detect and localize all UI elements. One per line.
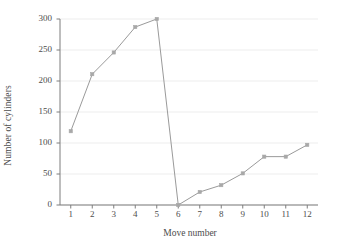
data-point-marker (263, 155, 266, 158)
x-tick-label: 4 (125, 210, 145, 219)
y-tick-label: 50 (43, 169, 52, 178)
y-tick-label: 200 (39, 76, 53, 85)
x-tick-label: 1 (61, 210, 81, 219)
y-tick-label: 300 (39, 14, 53, 23)
y-axis-ticks (57, 19, 61, 205)
y-tick-label: 250 (39, 45, 53, 54)
data-point-marker (69, 130, 72, 133)
line-chart-svg (60, 19, 318, 205)
x-tick-label: 5 (147, 210, 167, 219)
y-tick-label: 100 (39, 138, 53, 147)
y-tick-label: 0 (48, 200, 53, 209)
x-axis-title: Move number (60, 228, 320, 238)
x-axis-tick-labels: 123456789101112 (0, 210, 340, 226)
data-point-marker (177, 203, 180, 206)
x-tick-label: 7 (190, 210, 210, 219)
x-tick-label: 10 (254, 210, 274, 219)
y-tick-label: 150 (39, 107, 53, 116)
x-tick-label: 9 (233, 210, 253, 219)
x-tick-label: 2 (82, 210, 102, 219)
data-point-marker (306, 143, 309, 146)
x-axis-ticks (71, 205, 308, 209)
grid-lines (60, 19, 318, 205)
data-point-marker (134, 25, 137, 28)
chart-figure: Number of cylinders 050100150200250300 1… (0, 0, 340, 251)
plot-area (60, 19, 318, 205)
data-point-marker (91, 73, 94, 76)
x-tick-label: 3 (104, 210, 124, 219)
data-point-marker (155, 17, 158, 20)
data-point-marker (198, 190, 201, 193)
x-tick-label: 12 (297, 210, 317, 219)
data-point-marker (220, 184, 223, 187)
x-tick-label: 8 (211, 210, 231, 219)
data-point-marker (284, 155, 287, 158)
data-point-marker (241, 172, 244, 175)
x-tick-label: 6 (168, 210, 188, 219)
x-tick-label: 11 (276, 210, 296, 219)
data-point-marker (112, 51, 115, 54)
